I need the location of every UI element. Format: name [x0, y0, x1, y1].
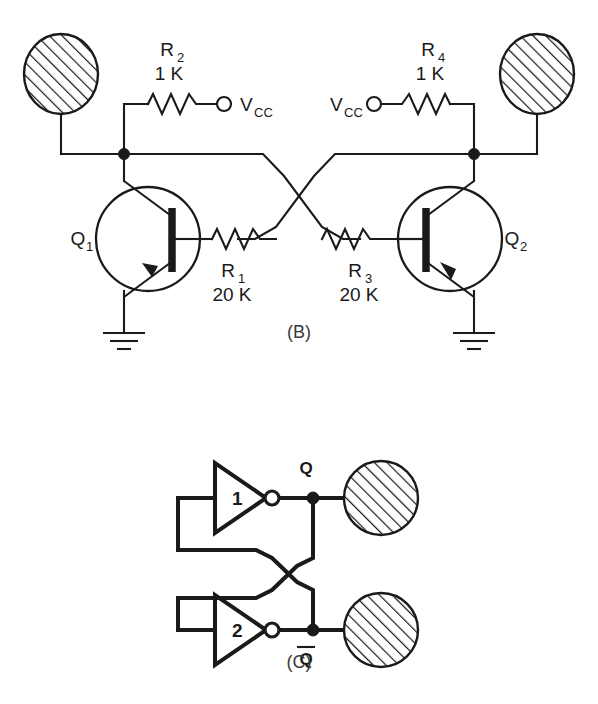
- inverter-1-label: 1: [232, 488, 243, 509]
- q1-ref-label: Q: [71, 228, 86, 249]
- terminal-vcc-left: [217, 97, 231, 111]
- resistor-r4: [382, 94, 450, 114]
- vcc-right-label: V: [330, 94, 343, 115]
- vcc-right-sub: CC: [344, 105, 363, 120]
- r1-ref-label: R: [221, 260, 235, 281]
- inverter-gate-1: 1: [215, 463, 279, 533]
- resistor-r3: [322, 229, 396, 249]
- cross-wire-right-to-left: [238, 154, 474, 239]
- q1-ref-sub: 1: [86, 239, 93, 254]
- output-blob-right: [500, 34, 574, 114]
- transistor-q1: [96, 181, 202, 297]
- terminal-vcc-right: [367, 97, 381, 111]
- resistor-r2: [148, 94, 216, 114]
- output-blob-q: [344, 461, 418, 535]
- r4-ref-label: R: [421, 39, 435, 60]
- feedback-qbar-to-inverter1: [178, 498, 313, 630]
- r2-ref-label: R: [160, 39, 174, 60]
- q-node-label: Q: [299, 459, 312, 478]
- r4-value-label: 1 K: [416, 63, 445, 84]
- feedback-q-to-inverter2: [178, 498, 313, 630]
- inverter-1-bubble: [265, 491, 279, 505]
- inverter-2-label: 2: [232, 620, 243, 641]
- output-blob-left: [24, 34, 98, 114]
- cross-wire-left-to-right: [124, 154, 360, 239]
- q2-ref-label: Q: [505, 228, 520, 249]
- panel-b-transistor-flipflop: V CC R 2 1 K V CC R 4 1 K: [0, 0, 598, 360]
- vcc-left-sub: CC: [254, 105, 273, 120]
- q2-ref-sub: 2: [520, 239, 527, 254]
- panel-c-caption: (C): [0, 652, 598, 673]
- r4-right-lead: [450, 104, 474, 154]
- r3-ref-label: R: [348, 260, 362, 281]
- panel-b-caption: (B): [0, 322, 598, 343]
- r2-left-lead: [124, 104, 148, 154]
- vcc-left-label: V: [240, 94, 253, 115]
- transistor-q2: [396, 181, 502, 297]
- r1-value-label: 20 K: [212, 284, 251, 305]
- r2-value-label: 1 K: [155, 63, 184, 84]
- inverter-2-bubble: [265, 623, 279, 637]
- r3-value-label: 20 K: [339, 284, 378, 305]
- figure-root: V CC R 2 1 K V CC R 4 1 K: [0, 0, 598, 704]
